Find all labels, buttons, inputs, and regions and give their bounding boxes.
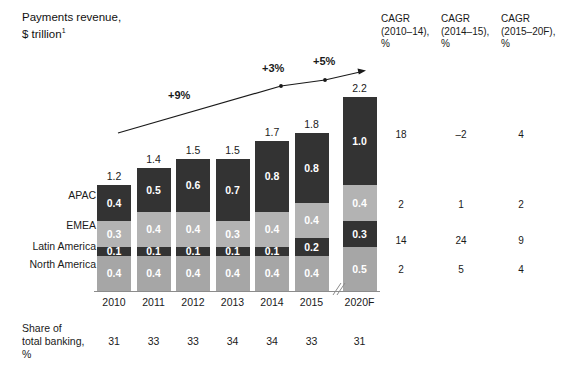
bar-segment-emea[interactable]: 0.4 bbox=[176, 212, 210, 247]
bar-total-label: 1.8 bbox=[295, 118, 329, 130]
cagr-value: –2 bbox=[441, 129, 481, 140]
bar-segment-value: 0.5 bbox=[146, 185, 160, 196]
bar-segment-value: 0.4 bbox=[107, 268, 121, 279]
cagr-value: 18 bbox=[381, 129, 421, 140]
bar-segment-north-america[interactable]: 0.4 bbox=[137, 256, 171, 291]
share-value: 31 bbox=[335, 335, 385, 347]
share-label-line1: Share of bbox=[22, 322, 62, 334]
bar-segment-value: 0.6 bbox=[186, 180, 200, 191]
bar-segment-value: 0.1 bbox=[107, 246, 121, 257]
share-value: 33 bbox=[287, 335, 337, 347]
bar-segment-value: 0.4 bbox=[186, 268, 200, 279]
series-label-emea: EMEA bbox=[66, 219, 96, 231]
bar-segment-emea[interactable]: 0.3 bbox=[216, 221, 250, 247]
bar-segment-north-america[interactable]: 0.4 bbox=[216, 256, 250, 291]
bar-segment-north-america[interactable]: 0.4 bbox=[295, 256, 329, 291]
bar-segment-value: 0.4 bbox=[225, 268, 239, 279]
x-axis-line bbox=[94, 291, 380, 292]
cagr-value: 4 bbox=[501, 129, 541, 140]
bar-segment-value: 0.1 bbox=[265, 246, 279, 257]
bar-segment-value: 0.1 bbox=[225, 246, 239, 257]
bar-segment-north-america[interactable]: 0.4 bbox=[255, 256, 289, 291]
bar-segment-apac[interactable]: 0.7 bbox=[216, 159, 250, 221]
bar-segment-value: 0.1 bbox=[146, 246, 160, 257]
cagr-value: 5 bbox=[441, 264, 481, 275]
growth-label-2015-2020f: +5% bbox=[313, 55, 335, 67]
x-axis-tick-2020f: 2020F bbox=[335, 296, 385, 308]
bar-segment-apac[interactable]: 0.8 bbox=[295, 133, 329, 203]
bar-segment-latin-america[interactable]: 0.1 bbox=[176, 247, 210, 256]
bar-segment-value: 0.4 bbox=[146, 224, 160, 235]
cagr-value: 24 bbox=[441, 235, 481, 246]
bar-segment-value: 0.4 bbox=[265, 268, 279, 279]
growth-label-2014-2015: +3% bbox=[262, 62, 284, 74]
bar-segment-latin-america[interactable]: 0.1 bbox=[216, 247, 250, 256]
cagr-value: 2 bbox=[381, 264, 421, 275]
bar-segment-north-america[interactable]: 0.4 bbox=[176, 256, 210, 291]
stacked-bar-plot: 0.40.10.30.41.220100.40.10.40.51.420110.… bbox=[0, 0, 581, 378]
bar-segment-value: 0.4 bbox=[186, 224, 200, 235]
bar-segment-value: 0.2 bbox=[304, 242, 318, 253]
bar-segment-value: 0.4 bbox=[304, 215, 318, 226]
bar-segment-value: 0.5 bbox=[352, 264, 366, 275]
bar-segment-apac[interactable]: 0.5 bbox=[137, 168, 171, 212]
chart-page: Payments revenue, $ trillion1 CAGR (2010… bbox=[0, 0, 581, 378]
bar-segment-latin-america[interactable]: 0.2 bbox=[295, 238, 329, 256]
bar-segment-value: 0.3 bbox=[107, 229, 121, 240]
bar-column[interactable]: 0.40.10.40.81.7 bbox=[255, 141, 289, 291]
series-label-latin-america: Latin America bbox=[32, 240, 96, 252]
growth-label-2010-2014: +9% bbox=[168, 89, 190, 101]
bar-segment-latin-america[interactable]: 0.1 bbox=[97, 247, 131, 256]
bar-segment-emea[interactable]: 0.3 bbox=[97, 221, 131, 247]
bar-segment-latin-america[interactable]: 0.1 bbox=[255, 247, 289, 256]
series-label-apac: APAC bbox=[68, 189, 96, 201]
bar-total-label: 1.2 bbox=[97, 170, 131, 182]
bar-segment-north-america[interactable]: 0.5 bbox=[343, 247, 377, 291]
bar-segment-latin-america[interactable]: 0.3 bbox=[343, 221, 377, 247]
bar-column[interactable]: 0.50.30.41.02.2 bbox=[343, 97, 377, 291]
bar-segment-emea[interactable]: 0.4 bbox=[295, 203, 329, 238]
cagr-value: 14 bbox=[381, 235, 421, 246]
cagr-value: 9 bbox=[501, 235, 541, 246]
bar-total-label: 1.4 bbox=[137, 153, 171, 165]
bar-total-label: 1.5 bbox=[176, 144, 210, 156]
bar-segment-value: 0.1 bbox=[186, 246, 200, 257]
bar-segment-value: 1.0 bbox=[352, 136, 366, 147]
bar-segment-apac[interactable]: 0.4 bbox=[97, 185, 131, 220]
bar-segment-emea[interactable]: 0.4 bbox=[343, 185, 377, 220]
bar-segment-apac[interactable]: 0.8 bbox=[255, 141, 289, 211]
bar-segment-value: 0.4 bbox=[265, 224, 279, 235]
series-label-north-america: North America bbox=[29, 258, 96, 270]
bar-total-label: 1.7 bbox=[255, 126, 289, 138]
bar-column[interactable]: 0.40.10.40.51.4 bbox=[137, 168, 171, 291]
bar-segment-value: 0.8 bbox=[265, 171, 279, 182]
cagr-value: 2 bbox=[501, 199, 541, 210]
bar-segment-emea[interactable]: 0.4 bbox=[137, 212, 171, 247]
x-axis-tick-2015: 2015 bbox=[287, 296, 337, 308]
bar-total-label: 1.5 bbox=[216, 144, 250, 156]
bar-segment-value: 0.4 bbox=[352, 198, 366, 209]
cagr-value: 2 bbox=[381, 199, 421, 210]
bar-column[interactable]: 0.40.20.40.81.8 bbox=[295, 133, 329, 291]
bar-total-label: 2.2 bbox=[343, 82, 377, 94]
bar-segment-value: 0.3 bbox=[225, 229, 239, 240]
bar-column[interactable]: 0.40.10.30.71.5 bbox=[216, 159, 250, 291]
bar-segment-emea[interactable]: 0.4 bbox=[255, 212, 289, 247]
bar-segment-apac[interactable]: 1.0 bbox=[343, 97, 377, 185]
cagr-value: 4 bbox=[501, 264, 541, 275]
bar-segment-north-america[interactable]: 0.4 bbox=[97, 256, 131, 291]
bar-column[interactable]: 0.40.10.40.61.5 bbox=[176, 159, 210, 291]
bar-segment-apac[interactable]: 0.6 bbox=[176, 159, 210, 212]
bar-segment-value: 0.4 bbox=[304, 268, 318, 279]
bar-segment-value: 0.8 bbox=[304, 163, 318, 174]
share-of-banking-label: Share of total banking, % bbox=[22, 322, 84, 361]
bar-segment-value: 0.3 bbox=[352, 229, 366, 240]
share-label-line3: % bbox=[22, 348, 31, 360]
bar-segment-value: 0.7 bbox=[225, 185, 239, 196]
bar-segment-value: 0.4 bbox=[146, 268, 160, 279]
bar-segment-value: 0.4 bbox=[107, 198, 121, 209]
share-label-line2: total banking, bbox=[22, 335, 84, 347]
bar-column[interactable]: 0.40.10.30.41.2 bbox=[97, 185, 131, 291]
cagr-value: 1 bbox=[441, 199, 481, 210]
bar-segment-latin-america[interactable]: 0.1 bbox=[137, 247, 171, 256]
